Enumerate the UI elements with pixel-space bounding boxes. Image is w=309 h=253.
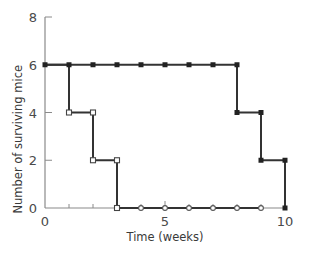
- y-tick-label: 6: [29, 58, 37, 73]
- open-square-marker: [115, 206, 120, 211]
- filled-square-marker: [259, 158, 264, 163]
- open-circle-marker: [163, 206, 168, 211]
- survival-chart: 024680510Time (weeks)Number of surviving…: [0, 0, 309, 253]
- series-line-filled: [45, 65, 285, 208]
- open-circle-marker: [139, 206, 144, 211]
- filled-square-marker: [115, 62, 120, 67]
- filled-square-marker: [67, 62, 72, 67]
- filled-square-marker: [235, 110, 240, 115]
- open-circle-marker: [187, 206, 192, 211]
- filled-square-marker: [283, 206, 288, 211]
- open-square-marker: [115, 158, 120, 163]
- series-group: [43, 62, 288, 210]
- filled-square-marker: [43, 62, 48, 67]
- y-tick-label: 0: [29, 201, 37, 216]
- y-tick-label: 4: [29, 106, 37, 121]
- y-tick-label: 8: [29, 10, 37, 25]
- open-square-marker: [91, 110, 96, 115]
- open-circle-marker: [211, 206, 216, 211]
- open-circle-marker: [235, 206, 240, 211]
- x-tick-label: 10: [277, 214, 294, 229]
- filled-square-marker: [283, 158, 288, 163]
- filled-square-marker: [139, 62, 144, 67]
- x-axis-title: Time (weeks): [126, 230, 204, 244]
- y-tick-label: 2: [29, 153, 37, 168]
- x-tick-label: 5: [161, 214, 169, 229]
- filled-square-marker: [163, 62, 168, 67]
- open-circle-marker: [259, 206, 264, 211]
- filled-square-marker: [91, 62, 96, 67]
- filled-square-marker: [259, 110, 264, 115]
- open-square-marker: [91, 158, 96, 163]
- filled-square-marker: [187, 62, 192, 67]
- filled-square-marker: [211, 62, 216, 67]
- open-square-marker: [67, 110, 72, 115]
- x-tick-label: 0: [41, 214, 49, 229]
- filled-square-marker: [235, 62, 240, 67]
- series-line-open: [45, 65, 261, 208]
- y-axis-title: Number of surviving mice: [11, 65, 25, 214]
